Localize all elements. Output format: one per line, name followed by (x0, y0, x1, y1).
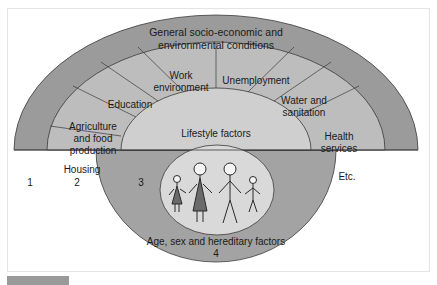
layer1-number: 1 (27, 177, 33, 188)
segment-etc: Etc. (338, 171, 355, 182)
segment-health-line2: services (321, 143, 358, 154)
segment-water-line1: Water and (281, 95, 327, 106)
segment-agriculture-line3: production (70, 145, 117, 156)
layer2-number: 2 (74, 177, 80, 188)
segment-education: Education (108, 99, 152, 110)
segment-agriculture-line1: Agriculture (69, 121, 117, 132)
segment-health-line1: Health (325, 131, 354, 142)
layer4-label: Age, sex and hereditary factors (147, 236, 285, 247)
layer3-label: Lifestyle factors (181, 128, 250, 139)
layer3-number: 3 (138, 177, 144, 188)
segment-work-line1: Work (169, 70, 193, 81)
segment-unemployment: Unemployment (222, 75, 289, 86)
layer4-number: 4 (213, 248, 219, 259)
segment-work-line2: environment (153, 82, 208, 93)
layer1-label-line2: environmental conditions (158, 39, 274, 51)
segment-housing: Housing (64, 164, 101, 175)
health-determinants-diagram: General socio-economic and environmental… (0, 0, 437, 285)
layer1-label-line1: General socio-economic and (149, 26, 283, 38)
footer-tab (7, 276, 69, 285)
segment-agriculture-line2: and food (74, 133, 113, 144)
segment-water-line2: sanitation (283, 107, 326, 118)
